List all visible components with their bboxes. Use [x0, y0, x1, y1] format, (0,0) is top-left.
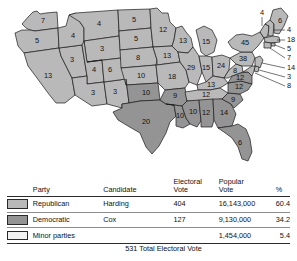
- cell-popular-vote: 1,454,000: [219, 228, 276, 244]
- cell-percent: 5.4: [276, 228, 290, 244]
- table-header-row: Party Candidate Electoral Vote Popular V…: [7, 178, 290, 196]
- state-label-ri: 5: [287, 44, 291, 53]
- map-svg: 7 5 13 3 4 4 3 4 3 3 6 5: [0, 0, 297, 178]
- state-tx[interactable]: [113, 100, 176, 154]
- state-label-ia: 13: [163, 51, 171, 60]
- total-electoral-vote-footer: 531 Total Electoral Vote: [0, 244, 297, 253]
- results-table-area: Party Candidate Electoral Vote Popular V…: [0, 178, 297, 261]
- header-candidate: Candidate: [103, 178, 173, 196]
- state-label-co: 6: [108, 65, 112, 74]
- state-label-pa: 38: [239, 54, 247, 63]
- leader-line-md: [255, 73, 285, 86]
- cell-candidate: Cox: [103, 212, 173, 228]
- state-label-tn: 12: [202, 90, 210, 99]
- header-electoral-vote: Electoral Vote: [173, 178, 218, 196]
- republican-swatch-cell: [7, 196, 33, 212]
- state-label-wv: 8: [233, 66, 237, 75]
- leader-line-ct: [270, 48, 285, 58]
- state-label-nc: 12: [235, 82, 243, 91]
- state-ct[interactable]: [264, 42, 271, 48]
- table-row[interactable]: Minor parties 1,454,000 5.4: [7, 228, 290, 244]
- state-label-ut: 4: [92, 65, 96, 74]
- state-label-mt: 4: [97, 19, 101, 28]
- election-map-figure: 7 5 13 3 4 4 3 4 3 3 6 5: [0, 0, 297, 261]
- state-label-nj: 14: [287, 63, 295, 72]
- state-label-id: 4: [71, 31, 75, 40]
- state-label-tx: 20: [142, 117, 150, 126]
- state-fl[interactable]: [218, 124, 252, 161]
- header-swatch-col: [7, 178, 33, 196]
- state-label-ma: 18: [287, 35, 295, 44]
- cell-electoral-vote: 127: [173, 212, 218, 228]
- state-label-ok: 10: [142, 88, 150, 97]
- state-label-ne: 8: [136, 53, 140, 62]
- header-percent: %: [276, 178, 290, 196]
- state-label-nv: 3: [70, 55, 74, 64]
- state-label-nh: 4: [287, 25, 291, 34]
- state-label-mi: 15: [202, 37, 210, 46]
- state-label-nm: 3: [113, 87, 117, 96]
- cell-percent: 60.4: [276, 196, 290, 212]
- state-label-il: 29: [187, 63, 195, 72]
- state-ri[interactable]: [271, 43, 275, 46]
- table-row[interactable]: Republican Harding 404 16,143,000 60.4: [7, 196, 290, 212]
- cell-popular-vote: 9,130,000: [219, 212, 276, 228]
- republican-swatch: [7, 199, 28, 209]
- leader-line-de: [259, 70, 285, 77]
- state-label-wi: 13: [179, 36, 187, 45]
- cell-percent: 34.2: [276, 212, 290, 228]
- state-label-ct: 7: [287, 53, 291, 62]
- state-label-ks: 10: [137, 71, 145, 80]
- header-electoral-vote-line2: Vote: [173, 185, 188, 194]
- state-label-sd: 5: [134, 34, 138, 43]
- state-label-ms: 10: [189, 107, 197, 116]
- state-label-al: 12: [202, 108, 210, 117]
- us-electoral-map: 7 5 13 3 4 4 3 4 3 3 6 5: [0, 0, 297, 178]
- cell-popular-vote: 16,143,000: [219, 196, 276, 212]
- state-label-sc: 9: [231, 95, 235, 104]
- cell-candidate: Harding: [103, 196, 173, 212]
- state-label-md: 8: [287, 81, 291, 90]
- cell-electoral-vote: [173, 228, 218, 244]
- cell-party: Minor parties: [33, 228, 103, 244]
- leader-line-ri: [275, 45, 285, 49]
- state-label-or: 5: [35, 36, 39, 45]
- header-popular-vote: Popular Vote: [219, 178, 276, 196]
- cell-candidate: [103, 228, 173, 244]
- header-popular-vote-line2: Vote: [219, 185, 234, 194]
- state-label-nd: 5: [132, 15, 136, 24]
- cell-electoral-vote: 404: [173, 196, 218, 212]
- state-label-de: 3: [287, 72, 291, 81]
- democratic-swatch: [7, 215, 28, 225]
- state-label-vt: 4: [260, 8, 264, 17]
- state-label-ca: 13: [44, 71, 52, 80]
- state-label-ny: 45: [241, 38, 249, 47]
- state-label-oh: 24: [217, 61, 225, 70]
- state-label-fl: 6: [238, 138, 242, 147]
- minor-swatch-cell: [7, 228, 33, 244]
- state-label-ga: 14: [220, 108, 228, 117]
- state-label-wa: 7: [41, 16, 45, 25]
- state-label-mo: 18: [168, 72, 176, 81]
- democratic-swatch-cell: [7, 212, 33, 228]
- state-label-mn: 12: [159, 25, 167, 34]
- state-label-az: 3: [91, 88, 95, 97]
- table-row[interactable]: Democratic Cox 127 9,130,000 34.2: [7, 212, 290, 228]
- state-label-la: 10: [176, 111, 184, 120]
- cell-party: Democratic: [33, 212, 103, 228]
- state-label-wy: 3: [100, 44, 104, 53]
- state-label-me: 6: [278, 16, 282, 25]
- state-label-ky: 13: [207, 80, 215, 89]
- minor-swatch: [7, 231, 28, 241]
- state-label-ar: 9: [173, 91, 177, 100]
- cell-party: Republican: [33, 196, 103, 212]
- results-table: Party Candidate Electoral Vote Popular V…: [7, 178, 290, 244]
- leader-line-nj: [262, 63, 285, 68]
- header-party: Party: [33, 178, 103, 196]
- state-label-in: 15: [202, 63, 210, 72]
